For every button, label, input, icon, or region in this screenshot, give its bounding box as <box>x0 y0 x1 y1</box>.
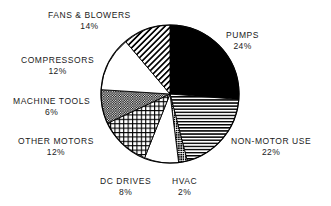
label-hvac: HVAC 2% <box>172 176 197 197</box>
label-fans-blowers-pct: 14% <box>48 21 131 32</box>
label-non-motor-use: NON-MOTOR USE 22% <box>231 136 311 157</box>
label-fans-blowers-name: FANS & BLOWERS <box>48 10 131 20</box>
label-hvac-pct: 2% <box>172 187 197 198</box>
label-pumps: PUMPS 24% <box>226 30 259 51</box>
label-pumps-pct: 24% <box>226 41 259 52</box>
label-pumps-name: PUMPS <box>226 30 259 40</box>
label-compressors-name: COMPRESSORS <box>21 55 94 65</box>
label-hvac-name: HVAC <box>172 176 197 186</box>
label-machine-tools-pct: 6% <box>13 107 90 118</box>
label-other-motors-name: OTHER MOTORS <box>18 136 94 146</box>
pie-slices <box>101 25 239 163</box>
label-compressors: COMPRESSORS 12% <box>21 55 94 76</box>
label-non-motor-use-pct: 22% <box>231 147 311 158</box>
label-machine-tools-name: MACHINE TOOLS <box>13 96 90 106</box>
label-other-motors: OTHER MOTORS 12% <box>18 136 94 157</box>
label-dc-drives-pct: 8% <box>100 187 151 198</box>
label-machine-tools: MACHINE TOOLS 6% <box>13 96 90 117</box>
label-dc-drives-name: DC DRIVES <box>100 176 151 186</box>
label-dc-drives: DC DRIVES 8% <box>100 176 151 197</box>
pie-chart: FANS & BLOWERS 14% PUMPS 24% COMPRESSORS… <box>0 0 331 206</box>
label-non-motor-use-name: NON-MOTOR USE <box>231 136 311 146</box>
label-compressors-pct: 12% <box>21 66 94 77</box>
label-other-motors-pct: 12% <box>18 147 94 158</box>
label-fans-blowers: FANS & BLOWERS 14% <box>48 10 131 31</box>
